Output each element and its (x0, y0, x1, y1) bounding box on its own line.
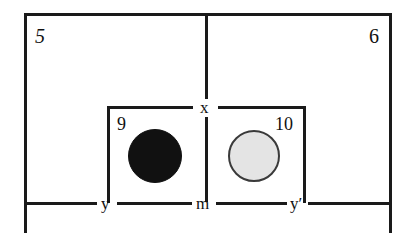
inner-box-top-left-run (107, 106, 193, 109)
inner-box-left-border (107, 106, 110, 203)
outer-top-border (24, 13, 392, 16)
baseline-segment-left-edge (24, 202, 97, 205)
axis-label-m: m (196, 195, 209, 212)
region-label-6: 6 (369, 26, 379, 46)
median-vertical-above-x (205, 13, 208, 99)
region-label-10: 10 (275, 115, 293, 133)
gray-disc (228, 130, 280, 182)
baseline-segment-m-to-yprime (216, 202, 287, 205)
region-label-9: 9 (117, 115, 126, 133)
axis-label-y: y (101, 195, 110, 212)
outer-right-border (389, 13, 392, 233)
black-disc (128, 129, 182, 183)
outer-left-border (24, 13, 27, 233)
axis-label-x: x (200, 99, 209, 116)
center-vertical-x-to-m (205, 117, 208, 202)
diagram-canvas: 5 6 9 10 x y m y′ (0, 0, 416, 243)
baseline-segment-y-to-m (117, 202, 192, 205)
baseline-segment-right-edge (308, 202, 392, 205)
axis-label-y-prime: y′ (290, 195, 302, 212)
inner-box-top-right-run (218, 106, 306, 109)
region-label-5: 5 (35, 26, 45, 46)
inner-box-right-border (303, 106, 306, 203)
